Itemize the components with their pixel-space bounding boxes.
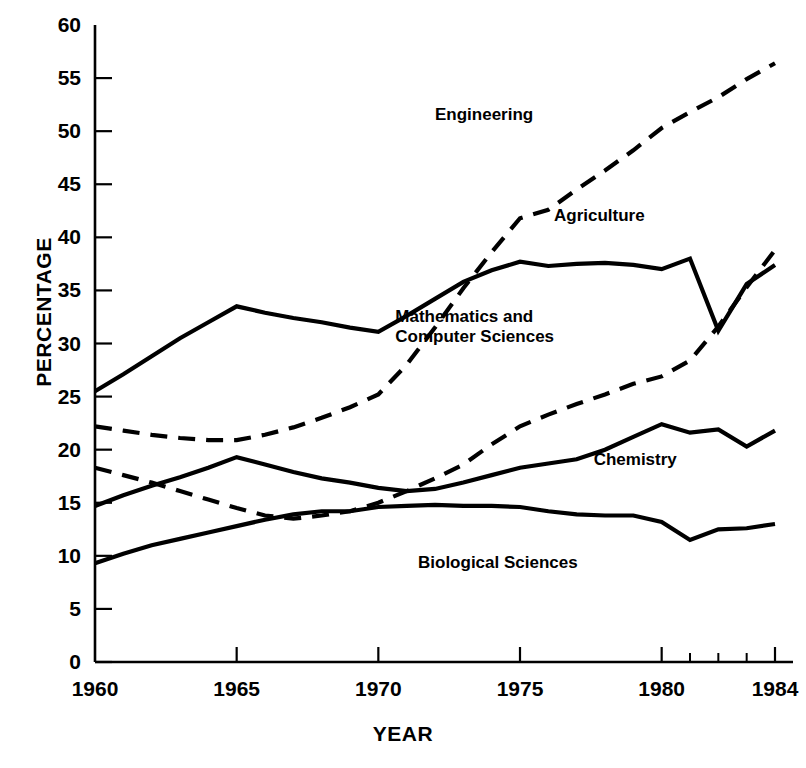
series-line-biological-sciences — [95, 505, 775, 563]
line-chart: PERCENTAGE YEAR 051015202530354045505560… — [0, 0, 806, 768]
axes — [95, 25, 793, 662]
series-line-chemistry — [95, 424, 775, 506]
data-series — [95, 63, 775, 563]
series-line-engineering — [95, 63, 775, 440]
plot-area — [0, 0, 806, 768]
series-line-mathematics-and-computer-sciences — [95, 250, 775, 519]
